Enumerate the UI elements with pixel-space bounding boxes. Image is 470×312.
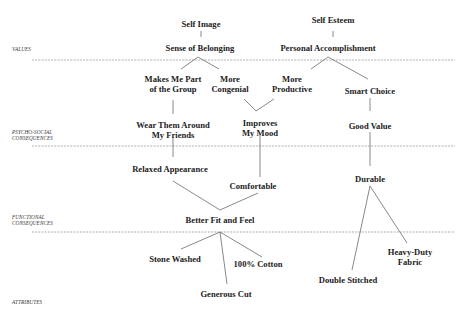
means-end-chain-diagram: VALUES PSYCHO-SOCIAL CONSEQUENCES FUNCTI…	[0, 0, 470, 312]
node-good-value: Good Value	[349, 121, 392, 131]
node-generous-cut: Generous Cut	[200, 289, 251, 299]
level-label-attributes: ATTRIBUTES	[12, 299, 42, 305]
node-self-esteem: Self Esteem	[312, 15, 355, 25]
node-more-productive: More Productive	[272, 74, 312, 94]
node-smart-choice: Smart Choice	[345, 86, 395, 96]
node-heavy-duty-fabric: Heavy-Duty Fabric	[388, 247, 432, 267]
node-comfortable: Comfortable	[230, 181, 277, 191]
level-label-functional: FUNCTIONAL CONSEQUENCES	[12, 214, 53, 226]
node-durable: Durable	[355, 174, 385, 184]
node-makes-me-part-of-the-group: Makes Me Part of the Group	[145, 74, 202, 94]
node-more-congenial: More Congenial	[211, 74, 248, 94]
node-wear-them-around-my-friends: Wear Them Around My Friends	[136, 120, 210, 140]
edge-fit-generous	[220, 232, 227, 284]
node-self-image: Self Image	[182, 19, 221, 29]
node-stone-washed: Stone Washed	[149, 254, 201, 264]
node-better-fit-and-feel: Better Fit and Feel	[186, 215, 255, 225]
edge-belonging-children	[181, 57, 219, 69]
node-sense-of-belonging: Sense of Belonging	[166, 43, 235, 53]
node-improves-my-mood: Improves My Mood	[242, 118, 278, 138]
level-label-psycho-social: PSYCHO-SOCIAL CONSEQUENCES	[12, 129, 53, 141]
level-label-values: VALUES	[12, 46, 31, 52]
node-relaxed-appearance: Relaxed Appearance	[132, 164, 208, 174]
edge-congenial-productive-mood	[244, 99, 274, 111]
node-100-percent-cotton: 100% Cotton	[234, 259, 283, 269]
node-personal-accomplishment: Personal Accomplishment	[280, 43, 375, 53]
node-double-stitched: Double Stitched	[319, 275, 378, 285]
